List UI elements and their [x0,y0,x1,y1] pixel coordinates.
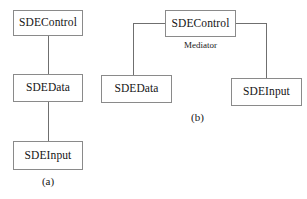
diagram-b-node-sdedata: SDEData [101,75,172,103]
figure-canvas: SDEControl SDEData SDEInput (a) SDEContr… [0,0,307,199]
diagram-b-node-sdecontrol: SDEControl [165,10,236,37]
diagram-a-edge-data-to-input [48,102,49,141]
diagram-a-node-sdeinput: SDEInput [13,141,83,170]
diagram-b-edge-control-to-input-horizontal [236,23,266,24]
diagram-b-edge-control-to-input-vertical [266,23,267,78]
diagram-b-mediator-label: Mediator [165,41,236,50]
diagram-b-edge-control-to-data-horizontal [133,23,165,24]
diagram-a-node-sdecontrol: SDEControl [13,10,83,36]
diagram-a-caption: (a) [13,176,83,187]
diagram-a-node-sdedata: SDEData [13,74,83,102]
diagram-b-node-sdeinput: SDEInput [231,78,302,106]
diagram-a-edge-control-to-data [48,36,49,74]
diagram-b-edge-control-to-data-vertical [133,23,134,75]
diagram-b-caption: (b) [162,112,233,123]
